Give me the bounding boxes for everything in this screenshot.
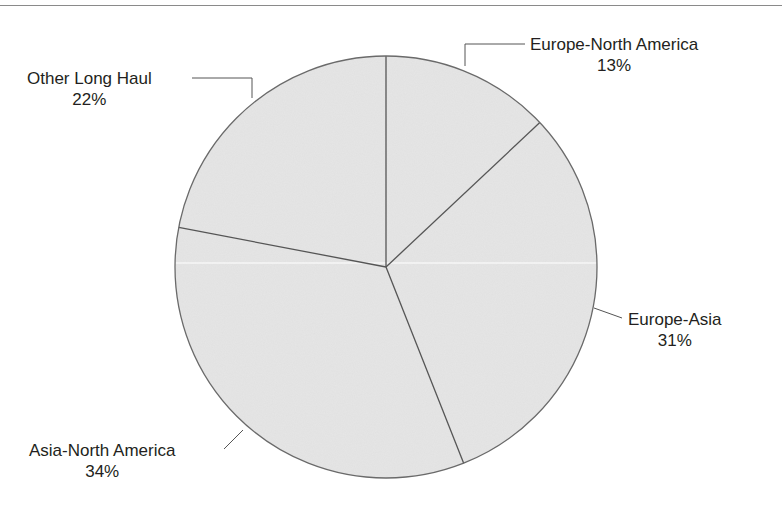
slice-label: Europe-North America — [530, 34, 698, 55]
slice-percent: 31% — [628, 330, 722, 351]
leader-other-long-haul — [192, 78, 252, 98]
slice-label: Other Long Haul — [27, 68, 152, 89]
leader-asia-north-america — [224, 430, 243, 449]
label-europe-asia: Europe-Asia 31% — [628, 309, 722, 351]
slice-label: Europe-Asia — [628, 309, 722, 330]
slice-percent: 22% — [27, 89, 152, 110]
label-other-long-haul: Other Long Haul 22% — [27, 68, 152, 110]
slice-percent: 13% — [530, 55, 698, 76]
slice-percent: 34% — [29, 461, 175, 482]
leader-europe-asia — [594, 308, 622, 318]
label-europe-north-america: Europe-North America 13% — [530, 34, 698, 76]
slice-label: Asia-North America — [29, 440, 175, 461]
leader-europe-north-america — [465, 44, 525, 66]
label-asia-north-america: Asia-North America 34% — [29, 440, 175, 482]
